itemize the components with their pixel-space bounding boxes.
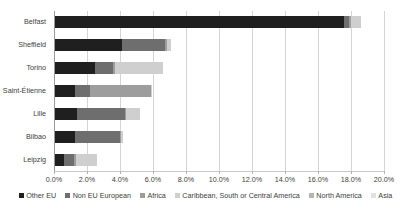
x-tick-mark — [384, 171, 385, 174]
legend-label: Non EU European — [73, 192, 131, 199]
bar-row — [54, 108, 384, 120]
bar-segment — [54, 108, 77, 120]
stacked-bar — [54, 131, 384, 143]
bar-segment — [90, 85, 151, 97]
stacked-bar-chart: BelfastSheffieldTorinoSaint-ÉtienneLille… — [0, 0, 411, 213]
bar-segment — [54, 131, 75, 143]
bar-segment — [54, 16, 344, 28]
y-axis-label: Lille — [33, 110, 46, 117]
bar-row — [54, 85, 384, 97]
bar-row — [54, 16, 384, 28]
bar-segment — [167, 39, 171, 51]
y-axis-label: Saint-Étienne — [3, 87, 46, 94]
x-tick-label: 8.0% — [178, 176, 194, 183]
legend-label: North America — [316, 192, 362, 199]
plot-area — [54, 11, 384, 171]
y-axis-label: Leipzig — [23, 156, 46, 163]
bar-segment — [54, 85, 75, 97]
x-tick-label: 12.0% — [242, 176, 262, 183]
legend-swatch-icon — [371, 193, 376, 198]
x-tick-label: 14.0% — [275, 176, 295, 183]
bar-segment — [64, 154, 74, 166]
stacked-bar — [54, 85, 384, 97]
y-axis-label: Torino — [26, 64, 46, 71]
legend-item[interactable]: Other EU — [19, 192, 56, 199]
bar-row — [54, 154, 384, 166]
y-axis-labels: BelfastSheffieldTorinoSaint-ÉtienneLille… — [0, 11, 50, 171]
x-tick-label: 6.0% — [145, 176, 161, 183]
bar-segment — [75, 85, 90, 97]
legend-item[interactable]: North America — [309, 192, 362, 199]
bar-segment — [151, 85, 152, 97]
x-tick-mark — [252, 171, 253, 174]
x-tick-mark — [120, 171, 121, 174]
y-axis-line — [54, 11, 55, 171]
bar-segment — [54, 154, 64, 166]
bar-segment — [54, 39, 122, 51]
x-tick-mark — [153, 171, 154, 174]
x-tick-mark — [186, 171, 187, 174]
stacked-bar — [54, 16, 384, 28]
bar-row — [54, 62, 384, 74]
bar-segment — [351, 16, 361, 28]
legend-swatch-icon — [65, 193, 70, 198]
y-axis-label: Sheffield — [18, 41, 46, 48]
bar-segment — [115, 62, 163, 74]
legend-swatch-icon — [175, 193, 180, 198]
chart-legend: Other EUNon EU EuropeanAfricaCaribbean, … — [0, 192, 411, 199]
legend-label: Asia — [378, 192, 392, 199]
bar-segment — [95, 62, 113, 74]
legend-item[interactable]: Africa — [140, 192, 166, 199]
bar-segment — [122, 39, 165, 51]
x-tick-mark — [54, 171, 55, 174]
legend-label: Africa — [147, 192, 165, 199]
stacked-bar — [54, 39, 384, 51]
bar-rows — [54, 11, 384, 171]
x-tick-mark — [285, 171, 286, 174]
bar-segment — [77, 108, 125, 120]
x-tick-label: 10.0% — [209, 176, 229, 183]
y-axis-label: Bilbao — [26, 133, 46, 140]
legend-item[interactable]: Asia — [371, 192, 392, 199]
legend-label: Other EU — [26, 192, 56, 199]
x-tick-mark — [219, 171, 220, 174]
x-tick-mark — [87, 171, 88, 174]
x-tick-mark — [318, 171, 319, 174]
legend-label: Caribbean, South or Central America — [182, 192, 299, 199]
legend-item[interactable]: Non EU European — [65, 192, 131, 199]
bar-segment — [76, 154, 97, 166]
bar-segment — [75, 131, 120, 143]
bar-row — [54, 39, 384, 51]
x-tick-label: 18.0% — [341, 176, 361, 183]
x-tick-mark — [351, 171, 352, 174]
x-tick-label: 4.0% — [112, 176, 128, 183]
x-tick-label: 16.0% — [308, 176, 328, 183]
bar-segment — [54, 62, 95, 74]
legend-swatch-icon — [309, 193, 314, 198]
gridline — [384, 11, 385, 171]
bar-segment — [126, 108, 140, 120]
stacked-bar — [54, 62, 384, 74]
stacked-bar — [54, 108, 384, 120]
legend-item[interactable]: Caribbean, South or Central America — [175, 192, 300, 199]
bar-row — [54, 131, 384, 143]
bar-segment — [121, 131, 123, 143]
x-tick-label: 2.0% — [79, 176, 95, 183]
stacked-bar — [54, 154, 384, 166]
x-tick-label: 20.0% — [374, 176, 394, 183]
legend-swatch-icon — [19, 193, 24, 198]
legend-swatch-icon — [140, 193, 145, 198]
x-tick-label: 0.0% — [46, 176, 62, 183]
y-axis-label: Belfast — [24, 18, 46, 25]
